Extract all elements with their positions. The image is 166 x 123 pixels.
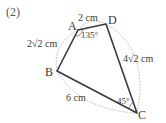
angle-c-value: 45° [117, 97, 130, 106]
length-dc: 4√2 cm [123, 54, 153, 64]
vertex-label-a: A [68, 20, 77, 32]
length-ab: 2√2 cm [27, 39, 57, 49]
length-bc: 6 cm [66, 93, 86, 103]
problem-number: (2) [6, 6, 20, 18]
vertex-label-d: D [108, 14, 117, 26]
length-ad: 2 cm [78, 13, 98, 23]
vertex-label-c: C [138, 109, 146, 121]
angle-a-value: 135° [81, 31, 98, 40]
vertex-label-b: B [45, 66, 53, 78]
